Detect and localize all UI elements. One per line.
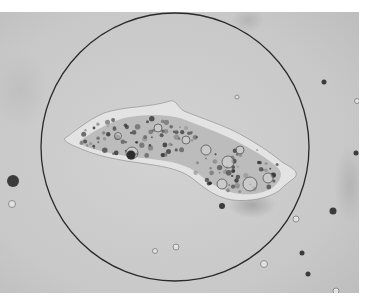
debris-particle — [322, 80, 327, 85]
micrograph-canvas — [0, 0, 376, 302]
debris-particle — [235, 95, 239, 99]
debris-particle — [330, 208, 337, 215]
debris-particle — [173, 244, 179, 250]
microscope-field — [0, 8, 366, 294]
debris-particle — [7, 175, 19, 187]
debris-particle — [306, 272, 311, 277]
debris-particle — [261, 261, 268, 268]
debris-particle — [300, 251, 305, 256]
debris-particle — [219, 203, 225, 209]
debris-particle — [9, 201, 16, 208]
microscope-photo — [0, 0, 376, 302]
debris-particle — [153, 249, 158, 254]
debris-particle — [354, 151, 359, 156]
debris-particle — [355, 99, 360, 104]
debris-particle — [293, 216, 299, 222]
